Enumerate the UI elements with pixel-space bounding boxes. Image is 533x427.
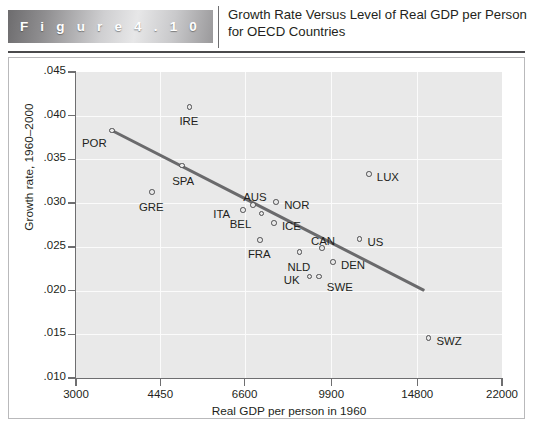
y-axis-tick-label: .045 <box>24 64 66 76</box>
data-point-marker <box>366 171 372 177</box>
data-point-label: POR <box>82 137 107 149</box>
gridline-horizontal <box>76 291 502 292</box>
data-point-label: UK <box>284 274 300 286</box>
figure-number-label: F i g u r e 4 . 1 0 <box>8 10 213 43</box>
y-axis-tick-label: .040 <box>24 108 66 120</box>
data-point-marker <box>250 202 256 208</box>
data-point-label: SWE <box>327 281 353 293</box>
data-point-label: SWZ <box>436 335 461 347</box>
x-axis-tick <box>75 378 76 386</box>
figure-title: Growth Rate Versus Level of Real GDP per… <box>228 7 528 40</box>
data-point-label: IRE <box>179 115 198 127</box>
data-point-label: NOR <box>284 199 309 211</box>
gridline-vertical <box>331 72 332 378</box>
data-point-marker <box>316 274 322 280</box>
x-axis-tick <box>244 378 245 386</box>
y-axis-tick <box>68 290 76 291</box>
y-axis-tick-label: .035 <box>24 151 66 163</box>
data-point-label: ICE <box>282 220 301 232</box>
data-point-marker <box>297 249 303 255</box>
header-rule <box>8 51 525 53</box>
x-axis-line <box>75 378 503 379</box>
y-axis-tick-label: .020 <box>24 283 66 295</box>
x-axis-tick <box>331 378 332 386</box>
figure-header: F i g u r e 4 . 1 0 Growth Rate Versus L… <box>0 0 533 52</box>
data-point-label: SPA <box>172 175 194 187</box>
x-axis-tick-label: 9900 <box>301 388 361 400</box>
data-point-marker <box>330 259 336 265</box>
figure-number-band: F i g u r e 4 . 1 0 <box>8 10 213 43</box>
data-point-label: BEL <box>230 218 252 230</box>
y-axis-tick <box>68 71 76 72</box>
x-axis-label: Real GDP per person in 1960 <box>76 404 502 418</box>
data-point-marker <box>257 237 263 243</box>
y-axis-tick <box>68 334 76 335</box>
data-point-label: LUX <box>377 171 399 183</box>
data-point-marker <box>273 199 279 205</box>
y-axis-tick <box>68 115 76 116</box>
x-axis-tick <box>417 378 418 386</box>
x-axis-tick-label: 14800 <box>387 388 447 400</box>
data-point-marker <box>187 104 193 110</box>
y-axis-tick <box>68 202 76 203</box>
data-point-label: AUS <box>243 191 266 203</box>
gridline-vertical <box>160 72 161 378</box>
x-axis-tick <box>160 378 161 386</box>
y-axis-tick-label: .015 <box>24 326 66 338</box>
x-axis-tick-label: 22000 <box>472 388 532 400</box>
data-point-label: GRE <box>139 201 164 213</box>
x-axis-tick-label: 6600 <box>215 388 275 400</box>
data-point-label: FRA <box>248 248 271 260</box>
data-point-label: ITA <box>213 208 230 220</box>
data-point-marker <box>149 189 155 195</box>
x-axis-tick-label: 4450 <box>130 388 190 400</box>
data-point-marker <box>109 128 115 134</box>
y-axis-tick-label: .010 <box>24 370 66 382</box>
y-axis-label: Growth rate, 1960–2000 <box>22 42 36 292</box>
data-point-label: US <box>368 236 384 248</box>
data-point-marker <box>240 207 246 213</box>
data-point-label: NLD <box>287 261 310 273</box>
y-axis-tick <box>68 246 76 247</box>
y-axis-tick-label: .030 <box>24 195 66 207</box>
y-axis-tick-label: .025 <box>24 239 66 251</box>
data-point-marker <box>426 335 432 341</box>
x-axis-tick <box>501 378 502 386</box>
y-axis-tick <box>68 159 76 160</box>
data-point-marker <box>357 236 363 242</box>
gridline-horizontal <box>76 159 502 160</box>
gridline-horizontal <box>76 116 502 117</box>
data-point-label: DEN <box>341 259 365 271</box>
data-point-label: CAN <box>311 235 335 247</box>
data-point-marker <box>271 220 277 226</box>
gridline-horizontal <box>76 247 502 248</box>
x-axis-tick-label: 3000 <box>46 388 106 400</box>
header-divider <box>218 6 219 48</box>
gridline-vertical <box>417 72 418 378</box>
